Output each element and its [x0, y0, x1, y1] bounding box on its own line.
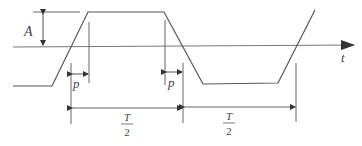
rise-time-left-label: p — [72, 76, 80, 91]
waveform — [13, 10, 315, 86]
half-period-left-numerator: T — [124, 111, 131, 123]
time-axis — [13, 45, 354, 47]
half-period-right-denominator: 2 — [226, 125, 232, 137]
rise-time-right-label: p — [167, 75, 175, 90]
amplitude-label: A — [23, 24, 33, 39]
time-axis-label: t — [341, 50, 345, 65]
trapezoid-waveform-diagram: A t p p T 2 T 2 — [0, 0, 362, 146]
half-period-right-numerator: T — [226, 110, 233, 122]
half-period-left-denominator: 2 — [124, 126, 130, 138]
